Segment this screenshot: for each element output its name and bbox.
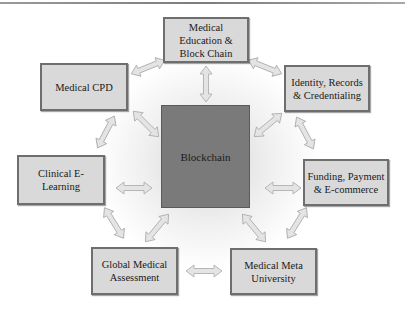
arrow-identity-funding: [291, 114, 318, 151]
arrow-clinical-global: [99, 205, 128, 242]
arrow-cpd-center: [129, 107, 163, 141]
node-medical-cpd: Medical CPD: [40, 63, 128, 111]
arrow-center-meta: [238, 210, 270, 245]
node-medical-education: Medical Education & Block Chain: [163, 17, 249, 63]
node-label: Clinical E- Learning: [38, 167, 84, 193]
arrow-funding-meta: [282, 205, 311, 242]
arrow-center-global: [141, 210, 173, 245]
center-node-blockchain: Blockchain: [161, 105, 250, 208]
node-label: Global Medical Assessment: [102, 258, 168, 284]
node-label: Medical Meta University: [244, 259, 303, 285]
arrow-global-meta: [186, 265, 222, 277]
arrow-clinical-center: [116, 182, 152, 194]
node-identity-records: Identity, Records & Credentialing: [284, 65, 370, 112]
node-meta-university: Medical Meta University: [230, 248, 317, 295]
node-label: Funding, Payment & E-commerce: [307, 170, 384, 196]
arrow-education-cpd: [129, 55, 167, 80]
node-label: Medical CPD: [55, 81, 112, 94]
node-label: Medical Education & Block Chain: [179, 21, 232, 60]
arrow-identity-center: [250, 109, 285, 141]
node-global-assessment: Global Medical Assessment: [91, 247, 178, 295]
arrow-funding-center: [265, 182, 301, 194]
node-label: Identity, Records & Credentialing: [291, 76, 363, 102]
arrow-education-center: [200, 66, 212, 102]
node-clinical-elearning: Clinical E- Learning: [17, 155, 105, 205]
arrow-cpd-clinical: [92, 113, 119, 150]
arrow-education-identity: [246, 55, 284, 80]
center-node-label: Blockchain: [180, 151, 230, 163]
node-funding-payment: Funding, Payment & E-commerce: [303, 159, 389, 206]
